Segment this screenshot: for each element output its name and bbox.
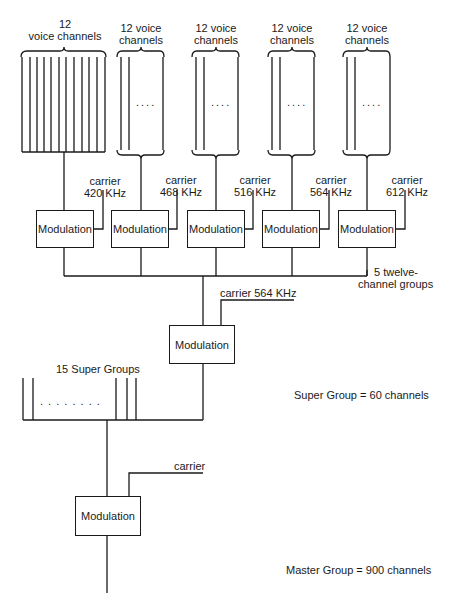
group4-ellipsis: .... xyxy=(287,96,307,108)
fdm-hierarchy-diagram xyxy=(0,0,451,609)
master-modulation-box: Modulation xyxy=(75,496,141,536)
super-groups-label: 15 Super Groups xyxy=(56,363,140,375)
modulation-box-2: Modulation xyxy=(111,210,169,248)
group4-label: 12 voice channels xyxy=(261,22,323,46)
super-modulation-box: Modulation xyxy=(169,325,235,364)
master-group-note: Master Group = 900 channels xyxy=(286,564,431,576)
carrier-label-1: carrier 420 KHz xyxy=(80,175,130,199)
carrier-label-2: carrier 468 KHz xyxy=(156,174,206,198)
group3-label: 12 voice channels xyxy=(185,22,247,46)
super-group-note: Super Group = 60 channels xyxy=(294,389,429,401)
group3-ellipsis: .... xyxy=(211,96,231,108)
group1-label: 12 voice channels xyxy=(24,18,106,42)
carrier-label-3: carrier 516 KHz xyxy=(230,174,280,198)
modulation-box-3: Modulation xyxy=(187,210,245,248)
group1-top-brace xyxy=(21,47,106,57)
carrier-label-4: carrier 564 KHz xyxy=(306,174,356,198)
group5-ellipsis: .... xyxy=(362,96,382,108)
group1-channel-lines xyxy=(22,57,105,152)
super-carrier-label: carrier 564 KHz xyxy=(220,287,296,299)
super-groups-ellipsis: . . . . . . . . xyxy=(40,395,101,407)
carrier-label-5: carrier 612 KHz xyxy=(382,174,432,198)
group2-ellipsis: .... xyxy=(136,96,156,108)
modulation-box-5: Modulation xyxy=(338,210,396,248)
modulation-box-4: Modulation xyxy=(262,210,320,248)
master-carrier-label: carrier xyxy=(174,460,205,472)
group5-label: 12 voice channels xyxy=(336,22,398,46)
modulation-box-1: Modulation xyxy=(36,210,94,248)
group2-label: 12 voice channels xyxy=(110,22,172,46)
groups-note: 5 twelve- channel groups xyxy=(358,266,433,290)
